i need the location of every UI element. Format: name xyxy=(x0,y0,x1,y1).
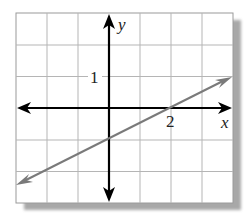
y-axis-label: y xyxy=(116,15,126,34)
tick-label-x-2: 2 xyxy=(166,112,175,131)
tick-label-y-1: 1 xyxy=(90,68,99,87)
coordinate-graph: y x 1 2 xyxy=(0,0,250,214)
x-axis-label: x xyxy=(220,113,229,132)
graph-svg: y x 1 2 xyxy=(0,0,250,214)
